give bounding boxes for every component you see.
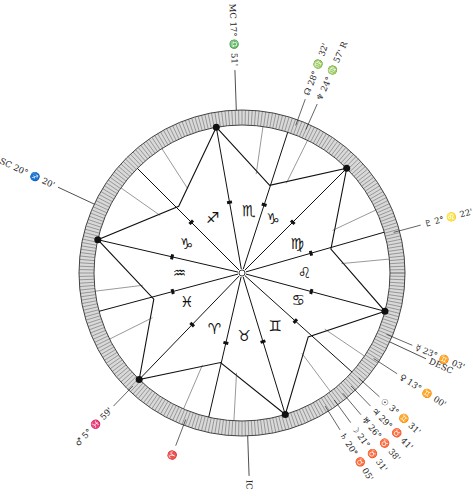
planet-line-sun [359, 378, 380, 397]
asc-line [58, 187, 94, 204]
asc-label: ASC 20° ♐ 20' [0, 153, 57, 190]
ic-line [248, 436, 249, 476]
planet-label-aries-point: ♈ [166, 448, 179, 462]
planet-line-venus [374, 359, 397, 374]
cusp-marker [309, 289, 313, 295]
sign-glyph-scorpio: ♏ [242, 202, 256, 220]
planet-line-mars [113, 386, 132, 406]
cusp-marker [227, 200, 232, 204]
cusp-line [245, 168, 347, 270]
planet-line-uranus [343, 393, 361, 414]
aspect-tick [256, 126, 263, 174]
cusp-marker [260, 339, 266, 343]
sign-glyph-gemini: ♊ [268, 317, 281, 335]
cusp-line [98, 240, 238, 272]
mc-line [235, 70, 236, 110]
planet-line-jupiter [351, 386, 370, 406]
planet-label-venus: ♀ 13° ♊ 00' [398, 372, 448, 410]
mc-label: MC 17° ♎ 51' [228, 3, 240, 66]
cusp-marker [223, 341, 229, 345]
sign-glyph-leo: ♌ [298, 264, 311, 282]
aspect-tick [110, 318, 153, 339]
cusp-marker [261, 203, 267, 207]
planet-label-mars: ♂ 5° ♓ 59' [73, 405, 115, 448]
aspect-tick [286, 140, 307, 183]
cusp-line [99, 274, 238, 311]
aspect-tick [332, 210, 375, 230]
aspect-tick [162, 149, 188, 189]
cusp-line [216, 127, 241, 269]
planet-line-moon [334, 400, 350, 423]
cusp-line [246, 274, 385, 311]
aspect-tick [121, 188, 160, 216]
sign-glyph-aquarius: ♒ [173, 264, 186, 282]
cusp-line [243, 277, 285, 415]
planet-labels: ☊ 28° ♍ 32'♆ 24° ♍ 57' R♇ 2° ♌ 22'☿ 23° … [73, 39, 473, 482]
cusp-line [246, 232, 384, 272]
planet-label-pluto: ♇ 2° ♌ 22' [423, 206, 473, 228]
aspect-tick [95, 285, 143, 291]
aspect-tick [342, 259, 390, 264]
sign-glyph-sagittarius: ♐ [206, 209, 219, 227]
sign-glyph-taurus: ♉ [237, 327, 250, 345]
sign-glyph-pisces: ♓ [180, 293, 193, 311]
sign-glyph-cancer: ♋ [292, 291, 305, 309]
cusp-marker [309, 250, 313, 256]
cusp-marker [171, 289, 175, 295]
cusp-marker [170, 254, 174, 260]
cusp-line [137, 168, 239, 270]
cusp-line [209, 277, 241, 417]
cusp-line [245, 276, 352, 372]
cusp-line [243, 132, 287, 269]
ic-label: IC [244, 480, 254, 490]
planet-line-saturn [325, 406, 340, 430]
aspect-tick [184, 365, 203, 409]
sign-glyph-virgo: ♍ [291, 235, 304, 253]
center-hub [239, 270, 245, 276]
sign-glyph-capricorn: ♑ [180, 235, 193, 253]
sign-glyph-aries: ♈ [208, 320, 221, 338]
natal-chart-wheel: ♏♑♍♌♋♊♉♈♓♒♑♐ ASC 20° ♐ 20'MC 17° ♎ 51'DE… [0, 0, 473, 496]
aspect-tick [234, 373, 237, 421]
aspect-tick [325, 329, 365, 356]
aspect-tick [302, 353, 331, 391]
sign-glyph-libra-like-capricorn: ♑ [267, 210, 280, 228]
cusp-line [139, 276, 239, 380]
